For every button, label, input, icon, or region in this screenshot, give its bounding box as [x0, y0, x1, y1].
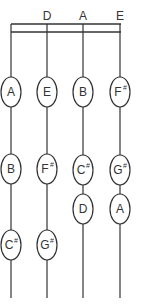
note-marker: C# [73, 155, 93, 185]
sharp-sign: # [50, 237, 54, 244]
nut [11, 24, 121, 32]
note-name: D [79, 202, 88, 216]
note-name: C [77, 163, 86, 177]
note-name: F [41, 162, 48, 176]
note-marker: C# [1, 230, 21, 260]
note-marker: A [110, 194, 130, 224]
note-marker: G# [37, 230, 57, 260]
note-marker: A [1, 77, 21, 107]
note-marker: F# [110, 77, 130, 107]
note-name: G [113, 163, 122, 177]
note-marker: F# [37, 154, 57, 184]
sharp-sign: # [86, 162, 90, 169]
string-label: D [43, 9, 52, 23]
sharp-sign: # [50, 161, 54, 168]
strings [11, 24, 120, 298]
note-name: G [40, 238, 49, 252]
note-name: B [79, 85, 87, 99]
note-name: A [7, 85, 15, 99]
note-name: F [114, 85, 121, 99]
note-marker: E [37, 77, 57, 107]
note-marker: B [73, 77, 93, 107]
note-name: C [5, 238, 14, 252]
note-markers: ABC#EF#G#BC#DF#G#A [1, 77, 130, 260]
fingerboard-diagram: DAE ABC#EF#G#BC#DF#G#A [0, 0, 165, 305]
note-marker: G# [110, 155, 130, 185]
string-labels: DAE [43, 9, 124, 23]
sharp-sign: # [123, 84, 127, 91]
string-label: E [116, 9, 124, 23]
note-marker: D [73, 194, 93, 224]
sharp-sign: # [123, 162, 127, 169]
note-name: A [116, 202, 124, 216]
sharp-sign: # [14, 237, 18, 244]
note-marker: B [1, 154, 21, 184]
string-label: A [79, 9, 87, 23]
note-name: E [43, 85, 51, 99]
note-name: B [7, 162, 15, 176]
